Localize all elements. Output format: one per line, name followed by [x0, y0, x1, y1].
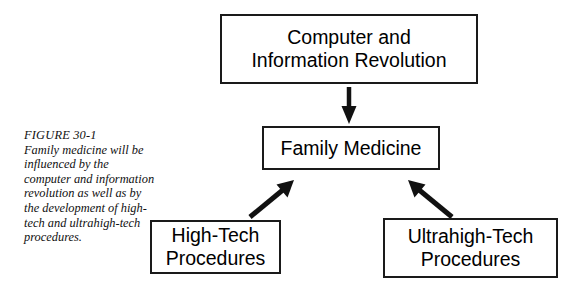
- figure-caption-label: FIGURE 30-1: [24, 128, 156, 143]
- figure-caption: FIGURE 30-1 Family medicine will be infl…: [24, 128, 156, 245]
- node-top-label: Computer and Information Revolution: [247, 26, 450, 72]
- node-high-tech-procedures: High-Tech Procedures: [150, 220, 281, 274]
- arrow-right-to-center: [408, 180, 452, 217]
- node-family-medicine: Family Medicine: [262, 126, 440, 170]
- node-computer-and-information-revolution: Computer and Information Revolution: [220, 14, 478, 84]
- figure-diagram: FIGURE 30-1 Family medicine will be infl…: [0, 0, 588, 302]
- node-ultrahigh-tech-procedures: Ultrahigh-Tech Procedures: [383, 218, 558, 278]
- arrow-left-to-center: [250, 180, 294, 217]
- figure-caption-text: Family medicine will be influenced by th…: [24, 143, 156, 245]
- node-right-label: Ultrahigh-Tech Procedures: [404, 225, 538, 271]
- arrow-top-to-center: [342, 87, 357, 124]
- node-center-label: Family Medicine: [277, 137, 426, 160]
- node-left-label: High-Tech Procedures: [162, 224, 270, 270]
